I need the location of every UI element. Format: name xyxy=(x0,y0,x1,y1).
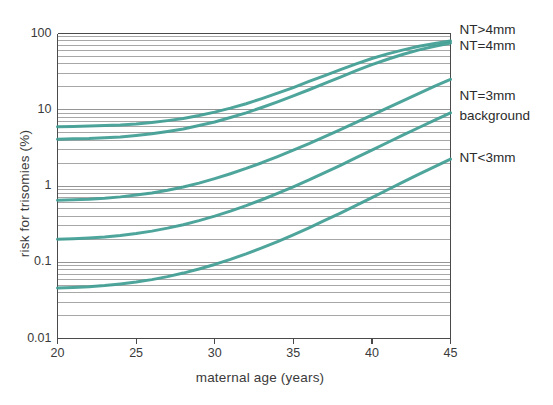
y-tick-label: 0.1 xyxy=(4,254,52,268)
plot-area-svg xyxy=(0,0,553,405)
x-tick-marks xyxy=(58,339,451,344)
legend-label-nt-4mm: NT>4mm xyxy=(460,22,516,37)
gridlines-group xyxy=(58,34,451,339)
x-tick-label: 25 xyxy=(116,346,156,360)
legend-label-nt-3mm: NT<3mm xyxy=(460,150,516,165)
x-tick-label: 45 xyxy=(431,346,471,360)
x-axis-title: maternal age (years) xyxy=(120,370,400,385)
y-tick-label: 10 xyxy=(4,102,52,116)
x-tick-label: 35 xyxy=(273,346,313,360)
legend-label-nt-4mm: NT=4mm xyxy=(460,38,516,53)
x-tick-label: 20 xyxy=(38,346,78,360)
y-tick-label: 1 xyxy=(4,178,52,192)
x-tick-label: 30 xyxy=(195,346,235,360)
y-tick-label: 100 xyxy=(4,26,52,40)
data-curves-group xyxy=(58,41,451,288)
legend-label-background: background xyxy=(460,108,531,123)
x-tick-label: 40 xyxy=(352,346,392,360)
y-tick-label: 0.01 xyxy=(4,331,52,345)
risk-for-trisomies-chart: risk for trisomies (%) maternal age (yea… xyxy=(0,0,553,405)
legend-label-nt-3mm: NT=3mm xyxy=(460,88,516,103)
y-axis-title: risk for trisomies (%) xyxy=(17,84,32,304)
